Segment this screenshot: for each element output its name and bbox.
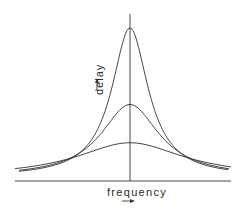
curve-wide [15,143,231,169]
y-axis-label: delay [93,64,105,95]
curve-narrow [19,28,228,171]
x-axis-label: frequency [107,186,167,198]
delay-frequency-diagram [0,0,246,209]
x-arrow-icon [122,199,135,203]
